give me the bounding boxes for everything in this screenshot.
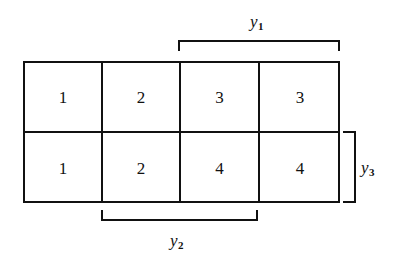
bracket-label-y1-letter: y [250, 12, 258, 31]
bracket-label-y1: y1 [250, 13, 263, 30]
bracket-label-y2: y2 [170, 232, 183, 249]
grid-cell-r1c4: 3 [260, 63, 340, 133]
bracket-label-y3-letter: y [361, 158, 369, 177]
grid-cell-r2c2: 2 [103, 133, 181, 203]
grid-cell-r1c2: 2 [103, 63, 181, 133]
bracket-label-y3-subscript: 3 [369, 166, 375, 178]
bracket-label-y3: y3 [361, 159, 374, 176]
diagram-figure: y1 1 2 3 3 1 2 4 4 y3 y2 [0, 0, 397, 264]
bracket-y2 [101, 210, 258, 221]
bracket-label-y2-subscript: 2 [178, 239, 184, 251]
bracket-label-y1-subscript: 1 [258, 20, 264, 32]
bracket-y3 [343, 131, 356, 203]
grid-cell-r2c4: 4 [260, 133, 340, 203]
grid-cell-r1c1: 1 [25, 63, 103, 133]
grid-cell-r1c3: 3 [181, 63, 260, 133]
bracket-label-y2-letter: y [170, 231, 178, 250]
grid-cell-r2c1: 1 [25, 133, 103, 203]
matrix-grid: 1 2 3 3 1 2 4 4 [23, 61, 340, 203]
grid-cell-r2c3: 4 [181, 133, 260, 203]
bracket-y1 [178, 40, 340, 51]
